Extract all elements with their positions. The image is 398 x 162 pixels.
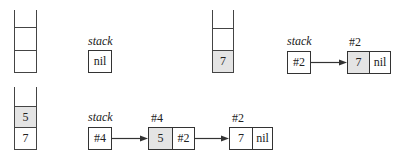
stack-label: stack bbox=[88, 111, 113, 123]
list-node: 7 nil bbox=[229, 127, 273, 150]
stack-label: stack bbox=[88, 35, 113, 47]
stack-pointer-box: #4 bbox=[88, 127, 112, 150]
stack-slot bbox=[15, 50, 36, 72]
node-address-label: #2 bbox=[232, 112, 244, 124]
arrow-icon bbox=[195, 138, 229, 140]
node-next-cell: #2 bbox=[172, 128, 194, 149]
node-next-cell: nil bbox=[252, 128, 272, 149]
node-value-cell: 7 bbox=[348, 52, 369, 73]
node-value-cell: 7 bbox=[230, 128, 252, 149]
node-address-label: #2 bbox=[349, 36, 361, 48]
stack-label: stack bbox=[287, 35, 312, 47]
stack-slot-top: 5 bbox=[15, 106, 36, 127]
arrow-icon bbox=[311, 62, 347, 64]
list-node: 7 nil bbox=[347, 51, 391, 74]
stack-pointer-box: nil bbox=[88, 50, 112, 73]
stack-column-push7: 7 bbox=[212, 10, 234, 73]
node-address-label: #4 bbox=[151, 112, 163, 124]
node-value-cell: 5 bbox=[149, 128, 172, 149]
list-node: 5 #2 bbox=[148, 127, 195, 150]
stack-slot bbox=[15, 27, 36, 50]
stack-slot: 7 bbox=[15, 127, 36, 149]
stack-pointer-box: #2 bbox=[287, 51, 311, 74]
stack-column-push5: 5 7 bbox=[14, 87, 37, 150]
stack-column-empty bbox=[14, 10, 37, 73]
stack-slot-top: 7 bbox=[213, 50, 233, 72]
stack-slot bbox=[213, 28, 233, 50]
node-next-cell: nil bbox=[369, 52, 390, 73]
arrow-icon bbox=[112, 138, 148, 140]
